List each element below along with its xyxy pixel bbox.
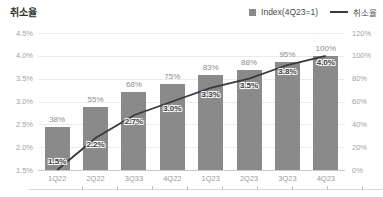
gridline xyxy=(38,170,345,171)
category-label: 2Q23 xyxy=(229,174,269,183)
bar xyxy=(160,84,185,170)
bar-value-label: 88% xyxy=(229,58,269,67)
line-value-label: 2.2% xyxy=(76,140,116,149)
category-label: 4Q22 xyxy=(152,174,192,183)
bar-value-label: 100% xyxy=(306,44,346,53)
bar-value-label: 38% xyxy=(37,115,77,124)
category-label: 4Q23 xyxy=(306,174,346,183)
bar xyxy=(121,92,146,170)
left-axis-tick: 1.5% xyxy=(3,166,33,175)
cropped-table-tick xyxy=(362,186,363,190)
bar-value-label: 83% xyxy=(191,63,231,72)
line-value-label: 1.5% xyxy=(37,157,77,166)
bar xyxy=(275,62,300,170)
bar-value-label: 55% xyxy=(76,95,116,104)
right-axis-tick: 0% xyxy=(352,166,382,175)
cropped-table-tick xyxy=(222,186,223,190)
right-axis-tick: 100% xyxy=(352,51,382,60)
cropped-table-tick xyxy=(257,186,258,190)
left-axis-tick: 3.0% xyxy=(3,97,33,106)
legend: Index(4Q23=1) 취소율 xyxy=(249,6,377,18)
chart: 취소율 Index(4Q23=1) 취소율 4.5%120%4.0%100%3.… xyxy=(0,0,383,197)
line-value-label: 3.5% xyxy=(229,81,269,90)
cropped-table-tick xyxy=(82,186,83,190)
line-value-label: 2.7% xyxy=(114,117,154,126)
legend-label-rate: 취소율 xyxy=(353,6,377,18)
left-axis-tick: 4.5% xyxy=(3,29,33,38)
right-axis-tick: 40% xyxy=(352,120,382,129)
cropped-table-tick xyxy=(187,186,188,190)
category-label: 2Q22 xyxy=(76,174,116,183)
legend-line-icon xyxy=(330,11,348,13)
line-value-label: 3.8% xyxy=(267,67,307,76)
cropped-table-tick xyxy=(327,186,328,190)
line-value-label: 3.0% xyxy=(152,104,192,113)
legend-square-icon xyxy=(249,9,256,16)
category-label: 3Q23 xyxy=(267,174,307,183)
bar-value-label: 75% xyxy=(152,72,192,81)
bar xyxy=(313,56,338,170)
right-axis-tick: 60% xyxy=(352,97,382,106)
category-label: 3Q33 xyxy=(114,174,154,183)
right-axis-tick: 20% xyxy=(352,143,382,152)
line-value-label: 4.0% xyxy=(306,58,346,67)
left-axis-tick: 2.0% xyxy=(3,143,33,152)
chart-title: 취소율 xyxy=(10,4,37,19)
cropped-table-tick xyxy=(292,186,293,190)
bar-value-label: 68% xyxy=(114,80,154,89)
category-label: 1Q22 xyxy=(37,174,77,183)
bar-value-label: 95% xyxy=(267,50,307,59)
left-axis-tick: 2.5% xyxy=(3,120,33,129)
left-axis-tick: 4.0% xyxy=(3,51,33,60)
bar xyxy=(83,107,108,170)
right-axis-tick: 80% xyxy=(352,74,382,83)
line-value-label: 3.3% xyxy=(191,90,231,99)
legend-label-index: Index(4Q23=1) xyxy=(261,7,318,17)
cropped-table-tick xyxy=(152,186,153,190)
left-axis-tick: 3.5% xyxy=(3,74,33,83)
cropped-table-tick xyxy=(117,186,118,190)
right-axis-tick: 120% xyxy=(352,29,382,38)
category-label: 1Q23 xyxy=(191,174,231,183)
gridline xyxy=(38,33,345,34)
